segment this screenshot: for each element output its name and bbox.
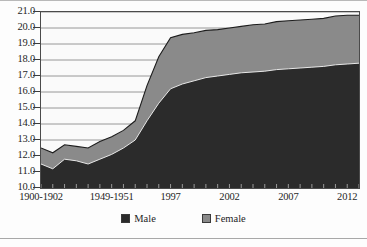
y-axis-tick-mark	[33, 155, 40, 156]
x-axis-tick-label: 2007	[278, 191, 298, 202]
x-axis-tick-label: 1900-1902	[19, 191, 63, 202]
legend-swatch-icon	[202, 214, 211, 223]
stacked-area-chart: 21.020.019.018.017.016.015.014.013.012.0…	[0, 3, 367, 201]
area-series-male	[41, 63, 359, 188]
legend-label: Male	[134, 213, 156, 224]
x-axis-tick-label: 1997	[160, 191, 180, 202]
legend-item: Female	[202, 213, 246, 224]
y-axis-tick-mark	[33, 75, 40, 76]
plot-area	[40, 11, 360, 189]
y-axis-tick-mark	[33, 91, 40, 92]
x-axis-tick-label: 2012	[337, 191, 357, 202]
x-axis-labels: 1900-19021949-19511997200220072012	[0, 191, 367, 207]
figure-container: 21.020.019.018.017.016.015.014.013.012.0…	[0, 0, 367, 247]
y-axis-tick-mark	[33, 107, 40, 108]
page-rule-top	[0, 0, 367, 1]
y-axis-tick-mark	[33, 171, 40, 172]
legend-swatch-icon	[121, 214, 130, 223]
chart-legend: MaleFemale	[0, 213, 367, 224]
plot-svg	[41, 12, 359, 188]
y-axis-tick-mark	[33, 27, 40, 28]
y-axis-tick-mark	[33, 139, 40, 140]
y-axis-tick-mark	[33, 11, 40, 12]
x-axis-tick-label: 2002	[219, 191, 239, 202]
page-rule-bottom	[0, 238, 367, 239]
x-axis-tick-label: 1949-1951	[90, 191, 134, 202]
legend-label: Female	[215, 213, 246, 224]
y-axis-tick-mark	[33, 43, 40, 44]
legend-item: Male	[121, 213, 156, 224]
y-axis-tick-mark	[33, 187, 40, 188]
y-axis-tick-mark	[33, 123, 40, 124]
y-axis-tick-mark	[33, 59, 40, 60]
